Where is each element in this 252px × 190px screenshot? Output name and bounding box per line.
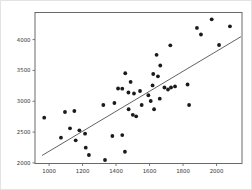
- y-tick-label: 3500: [17, 67, 31, 73]
- data-point: [42, 116, 46, 120]
- data-point: [77, 128, 81, 132]
- data-point: [138, 89, 142, 93]
- data-point: [146, 93, 150, 97]
- data-point: [173, 85, 177, 89]
- x-tick-label: 1000: [42, 168, 56, 174]
- data-point: [163, 86, 167, 90]
- data-point: [156, 74, 160, 78]
- data-point: [74, 138, 78, 142]
- x-tick-label: 1200: [76, 168, 90, 174]
- data-point: [131, 113, 135, 117]
- data-point: [103, 158, 107, 162]
- y-tick-label: 2500: [17, 129, 31, 135]
- data-point: [87, 153, 91, 157]
- data-point: [199, 33, 203, 37]
- data-point: [134, 114, 138, 118]
- data-point: [186, 83, 190, 87]
- data-point: [168, 43, 172, 47]
- data-point: [187, 103, 191, 107]
- data-point: [63, 110, 67, 114]
- data-point: [127, 107, 131, 111]
- data-point: [120, 133, 124, 137]
- figure-canvas: 1000120014001600180020002000250030003500…: [0, 0, 252, 190]
- data-point: [101, 103, 105, 107]
- data-point: [83, 132, 87, 136]
- data-point: [120, 87, 124, 91]
- data-point: [158, 97, 162, 101]
- data-point: [116, 87, 120, 91]
- data-point: [155, 53, 159, 57]
- data-point: [140, 103, 144, 107]
- data-point: [217, 43, 221, 47]
- trend-line: [42, 37, 241, 156]
- data-point: [169, 86, 173, 90]
- data-point: [149, 99, 153, 103]
- data-point: [228, 24, 232, 28]
- scatter-plot: 1000120014001600180020002000250030003500…: [1, 1, 252, 190]
- data-point: [68, 126, 72, 130]
- data-point: [132, 92, 136, 96]
- x-tick-label: 2000: [210, 168, 224, 174]
- x-tick-label: 1800: [176, 168, 190, 174]
- data-point: [112, 101, 116, 105]
- x-tick-label: 1400: [109, 168, 123, 174]
- x-tick-label: 1600: [143, 168, 157, 174]
- data-point: [123, 71, 127, 75]
- y-tick-label: 3000: [17, 98, 31, 104]
- y-tick-label: 4000: [17, 37, 31, 43]
- data-point: [72, 109, 76, 113]
- data-point: [158, 64, 162, 68]
- data-point: [84, 146, 88, 150]
- data-point: [195, 26, 199, 30]
- data-point: [210, 17, 214, 21]
- data-point: [151, 72, 155, 76]
- data-point: [110, 134, 114, 138]
- data-point: [129, 80, 133, 84]
- data-point: [151, 84, 155, 88]
- data-point: [152, 107, 156, 111]
- data-point: [59, 136, 63, 140]
- y-tick-label: 2000: [17, 160, 31, 166]
- data-point: [127, 91, 131, 95]
- data-point: [123, 150, 127, 154]
